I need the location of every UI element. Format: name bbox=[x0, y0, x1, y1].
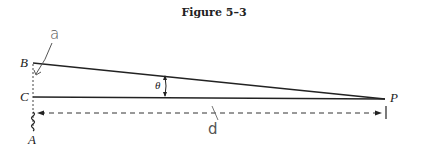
figure-canvas: Figure 5–3 B C A P θ a d bbox=[0, 0, 428, 152]
line-bp bbox=[33, 63, 385, 99]
angle-arrowhead-down-icon bbox=[163, 92, 167, 97]
handwritten-a-label: a bbox=[50, 25, 59, 43]
arrowhead-left-icon bbox=[37, 111, 44, 116]
point-p-label: P bbox=[390, 90, 398, 106]
point-b-label: B bbox=[20, 55, 28, 71]
handwritten-d-label: d bbox=[208, 120, 218, 138]
arrowhead-right-icon bbox=[375, 111, 382, 116]
angle-theta-label: θ bbox=[155, 79, 160, 91]
point-a-label: A bbox=[28, 132, 36, 148]
line-cp bbox=[33, 97, 385, 99]
pencil-arrow-icon bbox=[36, 43, 52, 74]
point-c-label: C bbox=[20, 89, 29, 105]
